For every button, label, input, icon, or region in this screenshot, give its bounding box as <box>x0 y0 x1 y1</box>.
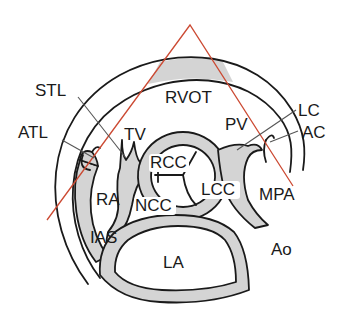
stl-leader <box>78 97 126 158</box>
atl-leader <box>62 140 94 158</box>
label-ao: Ao <box>271 240 292 259</box>
label-rcc: RCC <box>150 153 187 172</box>
aortic-root-and-septum <box>106 132 268 268</box>
label-ra: RA <box>96 190 120 209</box>
label-rvot: RVOT <box>165 88 212 107</box>
label-la: LA <box>163 253 184 272</box>
label-tv: TV <box>124 125 146 144</box>
label-pv: PV <box>225 115 248 134</box>
label-lc: LC <box>298 101 320 120</box>
echo-short-axis-diagram: RVOT STL ATL TV PV LC AC RCC LCC RA NCC … <box>0 0 352 334</box>
label-mpa: MPA <box>259 185 295 204</box>
label-ias: IAS <box>90 228 117 247</box>
label-ncc: NCC <box>135 196 172 215</box>
label-lcc: LCC <box>201 180 235 199</box>
label-stl: STL <box>35 81 66 100</box>
labels: RVOT STL ATL TV PV LC AC RCC LCC RA NCC … <box>18 81 326 272</box>
label-atl: ATL <box>18 123 48 142</box>
label-ac: AC <box>302 123 326 142</box>
